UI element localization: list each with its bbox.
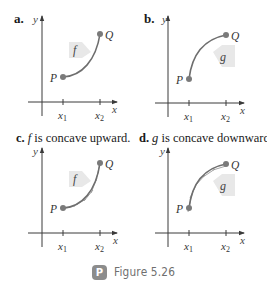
panel-c-point-q	[97, 160, 103, 166]
panel-a-label: a.	[14, 11, 24, 26]
figure-caption: P Figure 5.26	[92, 262, 183, 282]
panel-a: a. y x x1 x2 f P Q	[14, 11, 117, 123]
panel-b-x1-label: x1	[183, 110, 193, 124]
p-badge-icon: P	[92, 265, 107, 280]
panel-a-x-axis-label: x	[111, 103, 117, 115]
panel-d-q-label: Q	[231, 159, 240, 171]
panel-d-title: d.g is concave downward.	[139, 131, 267, 145]
panel-d-y-axis-label: y	[159, 145, 165, 157]
panel-b-q-label: Q	[231, 30, 240, 42]
figure-caption-text: Figure 5.26	[114, 265, 175, 279]
panel-a-q-label: Q	[105, 29, 114, 41]
panel-d: d.g is concave downward. y x x1 x2 g P Q	[139, 131, 267, 254]
panel-d-x2-label: x2	[220, 240, 230, 254]
panel-b-function-label: g	[220, 50, 226, 64]
panel-c-q-label: Q	[105, 158, 114, 170]
panel-d-x-axis-label: x	[239, 234, 245, 246]
panel-a-point-p	[60, 74, 66, 80]
panel-c-x2-label: x2	[94, 240, 104, 254]
panel-c-y-axis-label: y	[32, 145, 38, 157]
panel-b: b. y x x1 x2 g P Q	[144, 11, 245, 124]
panel-a-x2-label: x2	[94, 109, 104, 123]
panel-b-x2-label: x2	[220, 110, 230, 124]
panel-d-function-label: g	[220, 179, 226, 193]
panel-c-point-p	[60, 205, 66, 211]
panel-c-x1-label: x1	[57, 240, 67, 254]
panel-c: c.f is concave upward. y x x1 x2 f P Q	[16, 131, 130, 254]
panel-b-p-label: P	[175, 74, 183, 86]
figure-canvas: a. y x x1 x2 f P Q b. y x x1 x2 g P Q	[0, 0, 267, 292]
panel-c-title: c.f is concave upward.	[16, 131, 130, 145]
panel-c-x-axis-label: x	[112, 234, 118, 246]
panel-b-point-p	[186, 76, 192, 82]
panel-c-p-label: P	[49, 203, 57, 215]
panel-a-point-q	[97, 31, 103, 37]
panel-d-x1-label: x1	[183, 240, 193, 254]
panel-b-point-q	[223, 32, 229, 38]
panel-d-point-q	[223, 161, 229, 167]
panel-d-point-p	[186, 205, 192, 211]
panel-a-x1-label: x1	[57, 109, 67, 123]
panel-b-x-axis-label: x	[239, 104, 245, 116]
panel-d-p-label: P	[175, 203, 183, 215]
panel-a-y-axis-label: y	[32, 13, 38, 25]
panel-b-label: b.	[144, 11, 154, 26]
panel-a-p-label: P	[49, 72, 57, 84]
panel-b-y-axis-label: y	[161, 13, 167, 25]
